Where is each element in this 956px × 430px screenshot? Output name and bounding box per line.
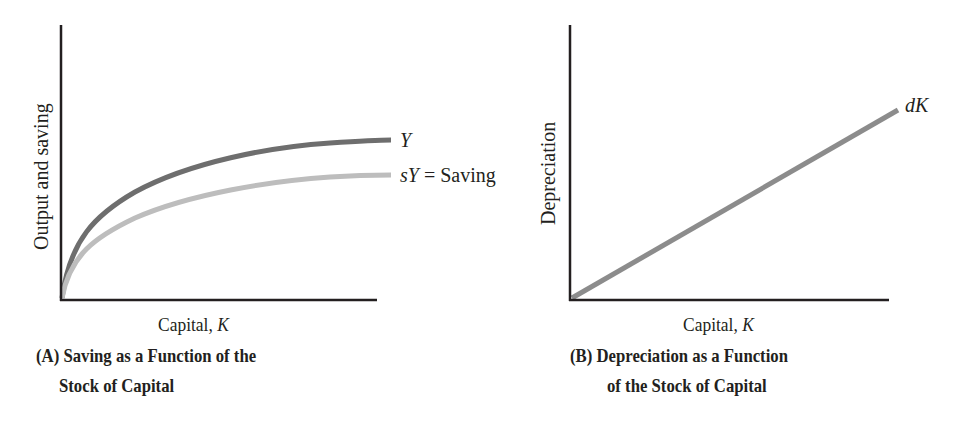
panel-b-chart: Depreciation dK Capital, K [537, 25, 930, 335]
y-label-b: Depreciation [537, 122, 560, 225]
caption-a-line-1: (A) Saving as a Function of the [36, 344, 256, 368]
output-curve-y [62, 140, 391, 298]
series-label-dk: dK [905, 94, 930, 116]
depreciation-line-dk [572, 110, 898, 298]
caption-b-line-1: (B) Depreciation as a Function [570, 344, 788, 368]
y-label-a: Output and saving [30, 103, 53, 250]
x-label-a: Capital, K [158, 314, 230, 335]
series-label-sy: sY = Saving [400, 164, 496, 187]
panel-a-chart: Output and saving Y sY = Saving Capital,… [30, 25, 496, 335]
caption-a-line-2: Stock of Capital [59, 374, 174, 398]
x-label-b: Capital, K [683, 314, 755, 335]
caption-b-line-2: of the Stock of Capital [607, 374, 767, 398]
series-label-y: Y [400, 129, 413, 151]
saving-curve-sy [62, 175, 391, 298]
